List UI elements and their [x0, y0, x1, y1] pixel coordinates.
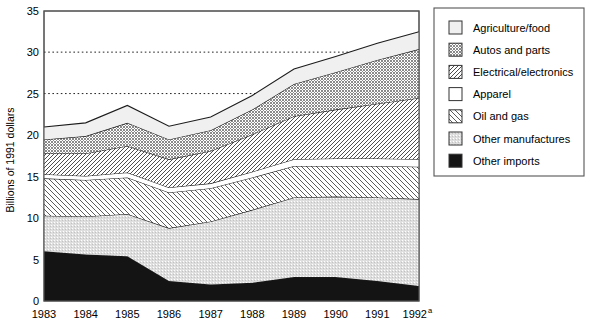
y-tick-label: 30 [27, 46, 39, 58]
legend-label: Other manufactures [473, 133, 571, 145]
legend-swatch [449, 43, 462, 56]
legend-swatch [449, 154, 462, 167]
legend-label: Electrical/electronics [473, 66, 574, 78]
y-axis-title: Billions of 1991 dollars [4, 107, 16, 212]
x-tick-label: 1986 [157, 308, 181, 320]
x-tick-label: 1987 [198, 308, 222, 320]
x-tick-label: 1988 [240, 308, 264, 320]
x-tick-label: 1989 [282, 308, 306, 320]
stacked-area-chart-figure: Billions of 1991 dollars 35 30 25 20 15 … [0, 0, 590, 335]
legend: Agriculture/foodAutos and partsElectrica… [434, 8, 584, 176]
legend-label: Agriculture/food [473, 22, 550, 34]
y-tick-label: 10 [27, 212, 39, 224]
x-tick-label: 1991 [365, 308, 389, 320]
legend-swatch [449, 132, 462, 145]
legend-label: Other imports [473, 155, 540, 167]
y-tick-label: 15 [27, 171, 39, 183]
y-tick-label: 20 [27, 129, 39, 141]
x-tick-label: 1992 [403, 308, 427, 320]
y-tick-label: 0 [33, 295, 39, 307]
legend-label: Autos and parts [473, 44, 551, 56]
y-tick-label: 5 [33, 254, 39, 266]
legend-swatch [449, 21, 462, 34]
x-tick-label: 1983 [32, 308, 56, 320]
y-tick-label: 35 [27, 5, 39, 17]
y-tick-label: 25 [27, 88, 39, 100]
legend-swatch [449, 110, 462, 123]
x-tick-label: 1990 [323, 308, 347, 320]
legend-label: Apparel [473, 88, 511, 100]
legend-swatch [449, 88, 462, 101]
x-tick-label: 1984 [73, 308, 97, 320]
x-tick-label: 1985 [115, 308, 139, 320]
legend-swatch [449, 65, 462, 78]
legend-label: Oil and gas [473, 110, 529, 122]
